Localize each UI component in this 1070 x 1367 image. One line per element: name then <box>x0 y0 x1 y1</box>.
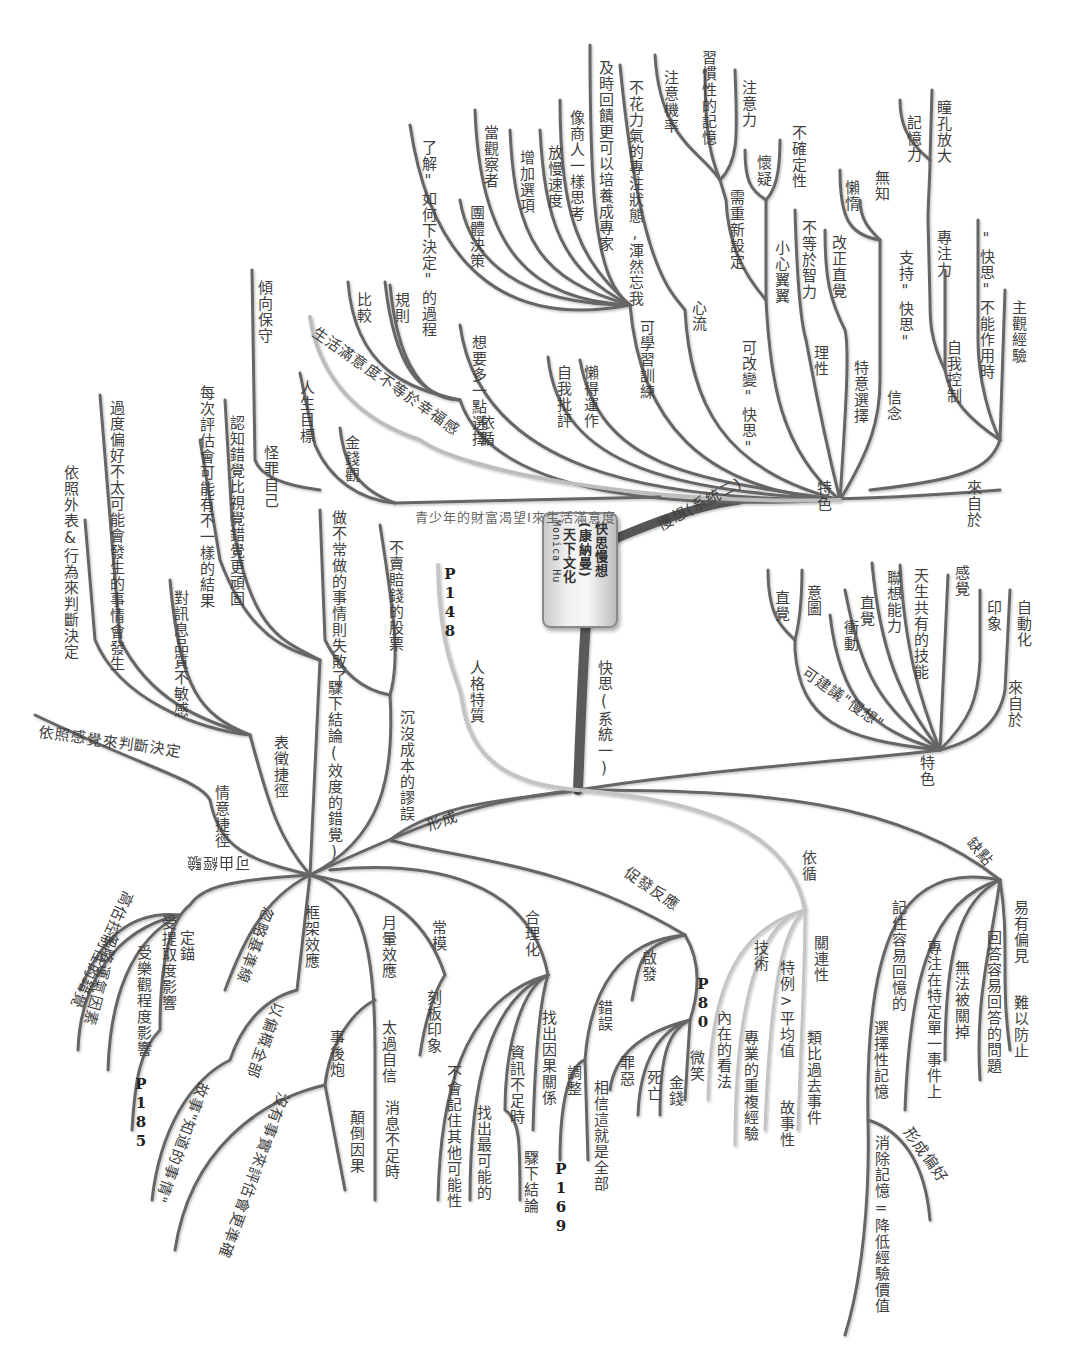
node[interactable]: 關連性 <box>812 935 828 983</box>
node[interactable]: 驟下結論 <box>522 1150 538 1214</box>
node[interactable]: 主觀經驗 <box>1010 300 1026 364</box>
node[interactable]: 規則 <box>393 292 409 324</box>
node[interactable]: 當觀察者 <box>482 125 498 189</box>
node[interactable]: 定錨 <box>178 930 194 962</box>
node[interactable]: 增加選項 <box>518 150 534 214</box>
node[interactable]: 及時回饋更可以培養成專家 <box>597 60 613 252</box>
node[interactable]: 顛倒因果 <box>348 1110 364 1174</box>
node[interactable]: 青少年的財富渴望I來生活滿意度 <box>415 510 616 525</box>
node[interactable]: 回答容易回答的問題 <box>985 930 1001 1074</box>
node[interactable]: 啟發 <box>640 950 656 982</box>
node[interactable]: 類比過去事件 <box>805 1030 821 1126</box>
node[interactable]: 內在的看法 <box>715 1010 731 1090</box>
node[interactable]: 印象 <box>985 600 1001 632</box>
node[interactable]: 事後炮 <box>328 1030 344 1078</box>
rationalize-label[interactable]: 合理化 <box>523 910 539 958</box>
node[interactable]: 可學習訓練 <box>638 320 654 400</box>
node[interactable]: 感覺 <box>953 565 969 597</box>
node[interactable]: 驟下結論(效度的錯覺) <box>326 680 342 862</box>
central-node[interactable]: 快思慢想 (康納曼) 天下文化 Monica Hu <box>542 512 618 628</box>
node[interactable]: "快思"不能作用時 <box>978 230 994 380</box>
node[interactable]: 金錢 <box>667 1075 683 1107</box>
node[interactable]: 找出因果關係 <box>540 1010 556 1106</box>
node[interactable]: 不會記住其他可能性 <box>445 1065 461 1209</box>
node[interactable]: 消除記憶=降低經驗價值 <box>873 1135 889 1314</box>
node[interactable]: 月暈效應 <box>380 915 396 979</box>
node[interactable]: 改正直覺 <box>830 235 846 299</box>
node[interactable]: 怪罪自己 <box>262 445 278 509</box>
node[interactable]: 意圖 <box>805 585 821 617</box>
node[interactable]: 像商人一樣思考 <box>568 110 584 222</box>
node[interactable]: 每次評估會可能有不一樣的結果 <box>198 385 214 609</box>
node[interactable]: 做不常做的事情則失敗了 <box>330 510 346 686</box>
node[interactable]: 自動化 <box>1015 600 1031 648</box>
node[interactable]: 不花力氣的專注狀態,渾然忘我 <box>627 80 643 307</box>
node[interactable]: 找出最可能的 <box>475 1105 491 1201</box>
node[interactable]: 依循 <box>478 415 494 447</box>
page-ref-p185[interactable]: P185 <box>133 1075 149 1151</box>
node[interactable]: 無知 <box>873 170 889 202</box>
node[interactable]: 直覺 <box>773 590 789 622</box>
node[interactable]: 專業的重複經驗 <box>742 1030 758 1142</box>
node[interactable]: 可改變"快思" <box>740 340 756 458</box>
node[interactable]: 相信這就是全部 <box>592 1080 608 1192</box>
node[interactable]: 需重新設定 <box>728 190 744 270</box>
node[interactable]: 對訊息品質不敏感 <box>172 590 188 718</box>
node[interactable]: 不等於智力 <box>800 220 816 300</box>
node[interactable]: 刻板印象 <box>425 990 441 1054</box>
node[interactable]: 罪惡 <box>618 1055 634 1087</box>
node[interactable]: 聯想能力 <box>885 570 901 634</box>
node[interactable]: 小心翼翼 <box>773 240 789 304</box>
node[interactable]: 表徵捷徑 <box>272 735 288 799</box>
node[interactable]: 資訊不足時 <box>508 1045 524 1125</box>
fast-traits-label[interactable]: 特色 <box>918 755 934 787</box>
node[interactable]: 比較 <box>355 292 371 324</box>
node[interactable]: 技術 <box>752 940 768 972</box>
node[interactable]: 懷疑 <box>755 155 771 187</box>
node[interactable]: 記住容易回憶的 <box>890 900 906 1012</box>
slow-from-label[interactable]: 來自於 <box>965 480 981 528</box>
node[interactable]: 懶得運作 <box>582 365 598 429</box>
node[interactable]: 習慣性的記憶 <box>700 50 716 146</box>
node[interactable]: 特例>平均值 <box>778 960 794 1059</box>
node[interactable]: 情意捷徑 <box>213 785 229 849</box>
node[interactable]: 支持"快思" <box>897 250 913 352</box>
node[interactable]: 了解"如何下決定"的過程 <box>420 140 436 338</box>
node[interactable]: 注意力 <box>740 80 756 128</box>
node[interactable]: 受提取度影響 <box>160 915 176 1011</box>
node[interactable]: 無法被關掉 <box>953 960 969 1040</box>
node[interactable]: 選擇性記憶 <box>872 1020 888 1100</box>
node[interactable]: 框架效應 <box>303 905 319 969</box>
node[interactable]: 沉沒成本的謬誤 <box>398 710 414 822</box>
node[interactable]: 金錢觀 <box>343 435 359 483</box>
node[interactable]: 易有偏見 <box>1012 900 1028 964</box>
node[interactable]: 注意機率 <box>662 70 678 134</box>
node[interactable]: 專注在特定單一事件上 <box>925 940 941 1100</box>
node[interactable]: 微笑 <box>688 1050 704 1082</box>
node[interactable]: 專注力 <box>935 230 951 278</box>
page-ref-p169[interactable]: P169 <box>553 1160 569 1236</box>
node[interactable]: 信念 <box>885 390 901 422</box>
node[interactable]: 放慢速度 <box>546 145 562 209</box>
node[interactable]: 天生共有的技能 <box>912 568 928 680</box>
node[interactable]: 衝動 <box>842 620 858 652</box>
node[interactable]: 瞳孔放大 <box>935 100 951 164</box>
node[interactable]: 自我控制 <box>945 340 961 404</box>
node[interactable]: 調整 <box>565 1065 581 1097</box>
node[interactable]: 記憶力 <box>905 115 921 163</box>
node[interactable]: 團體決策 <box>468 205 484 269</box>
page-ref-p80[interactable]: P80 <box>695 975 711 1032</box>
node[interactable]: 直覺 <box>858 595 874 627</box>
node[interactable]: 消息不足時 <box>383 1100 399 1180</box>
node[interactable]: 心流 <box>690 300 706 332</box>
page-ref-p148[interactable]: P148 <box>442 565 458 641</box>
node[interactable]: 太過自信 <box>380 1020 396 1084</box>
node[interactable]: 人生目標 <box>298 380 314 444</box>
personality-label[interactable]: 人格特質 <box>468 660 484 724</box>
node[interactable]: 來自於 <box>1006 680 1022 728</box>
node[interactable]: 故事性 <box>778 1100 794 1148</box>
node[interactable]: 傾向保守 <box>256 280 272 344</box>
node[interactable]: 錯誤 <box>596 1000 612 1032</box>
node[interactable]: 難以防止 <box>1012 995 1028 1059</box>
node[interactable]: 理性 <box>812 345 828 377</box>
